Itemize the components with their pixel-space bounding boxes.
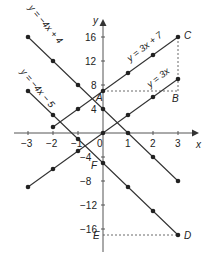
y-tick-label: 4 — [91, 104, 97, 115]
data-point — [26, 35, 31, 40]
data-point — [176, 179, 181, 184]
labels: −3−2−10123161284−4−8−12−16xyABCDEFy = −4… — [18, 1, 202, 241]
x-tick-label: 2 — [150, 138, 156, 149]
point-label-f: F — [91, 160, 98, 171]
x-tick-label: 1 — [125, 138, 131, 149]
data-point — [151, 155, 156, 160]
data-point — [151, 95, 156, 100]
x-axis-label: x — [195, 139, 202, 150]
data-point — [76, 107, 81, 112]
point-label-d: D — [184, 230, 191, 241]
x-axis-arrow-icon — [192, 130, 199, 137]
data-point — [76, 83, 81, 88]
data-point — [101, 131, 106, 136]
y-tick-label: −12 — [80, 200, 97, 211]
y-axis-arrow-icon — [100, 19, 107, 26]
y-tick-label: 8 — [91, 80, 97, 91]
y-tick-label: 12 — [85, 56, 97, 67]
data-point — [101, 107, 106, 112]
line-graph: −3−2−10123161284−4−8−12−16xyABCDEFy = −4… — [0, 0, 204, 260]
data-point — [151, 53, 156, 58]
y-tick-label: −8 — [80, 176, 92, 187]
data-point — [151, 209, 156, 214]
data-point — [26, 185, 31, 190]
point-label-e: E — [93, 230, 100, 241]
data-point — [51, 125, 56, 130]
y-axis-label: y — [92, 15, 99, 26]
x-tick-label: 3 — [175, 138, 181, 149]
data-point — [51, 113, 56, 118]
data-point — [101, 161, 106, 166]
data-point — [126, 185, 131, 190]
point-label-c: C — [184, 30, 192, 41]
data-point — [176, 35, 181, 40]
x-tick-label: −2 — [46, 138, 58, 149]
point-label-a: A — [95, 92, 103, 103]
point-label-b: B — [172, 93, 179, 104]
x-tick-label: 0 — [97, 138, 103, 149]
data-point — [51, 167, 56, 172]
data-point — [176, 77, 181, 82]
data-point — [51, 59, 56, 64]
equation-label: y = −4x + 4 — [26, 1, 65, 45]
data-point — [26, 89, 31, 94]
axes — [14, 19, 199, 252]
dashed-guides — [103, 37, 178, 235]
equation-label: y = 3x + 7 — [124, 29, 165, 64]
data-point — [176, 233, 181, 238]
data-point — [126, 71, 131, 76]
data-point — [126, 131, 131, 136]
data-point — [126, 113, 131, 118]
equation-label: y = −4x − 5 — [18, 65, 58, 110]
x-tick-label: −1 — [71, 138, 83, 149]
y-tick-label: 16 — [85, 32, 97, 43]
x-tick-label: −3 — [21, 138, 33, 149]
